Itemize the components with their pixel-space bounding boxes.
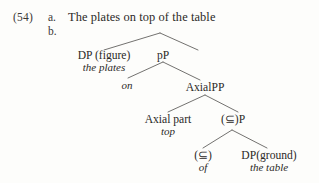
- branch-pp-to-on: [128, 62, 163, 78]
- tree-gloss-subset-head: of: [199, 161, 208, 173]
- branch-axialpp-to-axial-part: [168, 95, 205, 112]
- tree-node-subset-p: (⊆)P: [221, 113, 245, 126]
- branch-root-to-dp-figure: [104, 33, 160, 50]
- tree-gloss-axial-part: top: [161, 125, 175, 137]
- example-item-label-b: b.: [48, 25, 57, 37]
- tree-node-pp: pP: [157, 49, 169, 62]
- branch-subset-p-to-subset-head: [203, 130, 232, 148]
- example-item-text-a: The plates on top of the table: [68, 10, 216, 25]
- branch-root-to-pp: [160, 33, 198, 50]
- example-item-label-a: a.: [48, 11, 56, 23]
- branch-pp-to-axialpp: [163, 62, 200, 80]
- tree-node-pp-label: pP: [157, 49, 169, 62]
- tree-gloss-dp-ground: the table: [250, 161, 288, 173]
- tree-gloss-p-head-on: on: [122, 79, 133, 91]
- tree-gloss-dp-figure: the plates: [83, 61, 125, 73]
- example-number: (54): [13, 11, 33, 23]
- branch-axialpp-to-subset-p: [205, 95, 238, 112]
- document-page: (54) a. The plates on top of the table b…: [0, 0, 319, 183]
- branch-subset-p-to-dp-ground: [232, 130, 267, 148]
- tree-node-axialpp: AxialPP: [186, 81, 225, 94]
- tree-node-subset-p-label: (⊆)P: [221, 113, 245, 126]
- tree-node-axialpp-label: AxialPP: [186, 81, 225, 94]
